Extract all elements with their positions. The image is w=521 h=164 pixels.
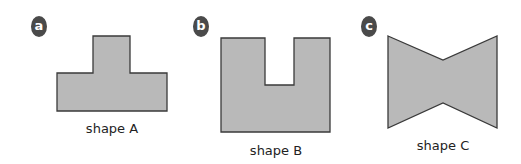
shape-c bbox=[388, 36, 497, 128]
label-shape-c: shape C bbox=[417, 138, 469, 153]
shape-b bbox=[221, 38, 330, 132]
badge-c: c bbox=[361, 16, 377, 37]
badge-b: b bbox=[193, 16, 209, 37]
label-shape-b: shape B bbox=[250, 143, 302, 158]
badge-a: a bbox=[31, 16, 47, 37]
shape-a bbox=[57, 36, 167, 111]
label-shape-a: shape A bbox=[86, 121, 138, 136]
